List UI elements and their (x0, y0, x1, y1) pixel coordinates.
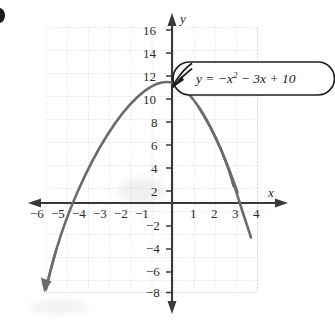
equation-label: y = −x2 − 3x + 10 (196, 72, 295, 86)
y-tick-label-2: 2 (151, 185, 158, 198)
x-tick-label-4: 4 (253, 207, 260, 220)
y-tick-label-8: 8 (151, 116, 158, 129)
y-tick-label-neg8: −8 (146, 286, 160, 299)
y-tick-label-12: 12 (143, 70, 156, 83)
equation-suffix: − 3x + 10 (237, 71, 295, 86)
x-tick-label-1: 1 (190, 207, 197, 220)
graph-figure: y = −x2 − 3x + 10 y x 16 14 12 10 8 6 4 … (0, 0, 335, 321)
x-tick-label-neg3: −3 (93, 207, 107, 220)
y-tick-label-16: 16 (143, 24, 156, 37)
x-tick-label-neg5: −5 (51, 207, 65, 220)
x-tick-label-neg1: −1 (135, 207, 149, 220)
x-axis-name: x (268, 186, 274, 199)
coordinate-plane-svg (0, 0, 335, 321)
y-tick-label-6: 6 (151, 139, 158, 152)
x-tick-label-3: 3 (232, 207, 239, 220)
x-tick-label-2: 2 (211, 207, 218, 220)
y-tick-label-10: 10 (143, 93, 156, 106)
y-tick-label-4: 4 (151, 162, 158, 175)
y-tick-label-neg6: −6 (146, 265, 160, 278)
y-axis-name: y (180, 12, 186, 25)
equation-prefix: y = −x (196, 71, 233, 86)
y-tick-label-neg4: −4 (146, 242, 160, 255)
y-tick-label-14: 14 (143, 47, 156, 60)
x-tick-label-neg2: −2 (114, 207, 128, 220)
x-tick-label-neg6: −6 (30, 207, 44, 220)
x-tick-label-neg4: −4 (72, 207, 86, 220)
